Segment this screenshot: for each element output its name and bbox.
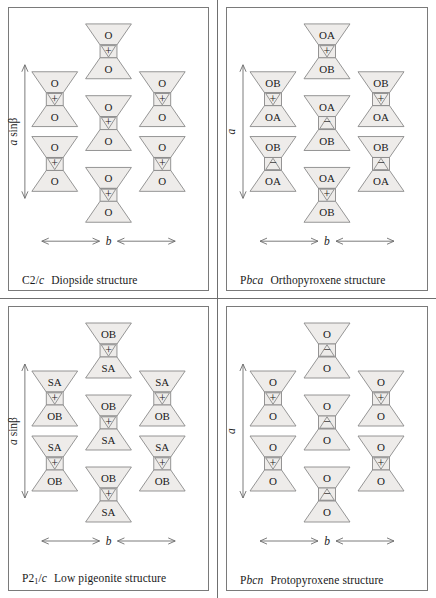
chain-label-top: SA	[155, 441, 169, 453]
structure-figure-grid: +OO+OO+OO+OO+OO+OO+OOa sinβbC2/cDiopside…	[0, 0, 436, 598]
panel-drawing-area: +OBOA−OBOA+OBOA−OBOA+OAOB−OAOB+OAOBab	[218, 0, 436, 298]
chain-label-top: O	[377, 376, 385, 388]
polyhedron-unit: −OO	[304, 467, 350, 522]
chain-label-top: OB	[101, 328, 116, 340]
chain-label-top: OB	[373, 142, 388, 154]
space-group-upright: C2	[22, 274, 36, 286]
chain-label-bottom: OA	[265, 175, 281, 187]
polyhedron-unit: +OO	[358, 371, 404, 426]
polyhedron-unit: +OO	[32, 137, 78, 192]
space-group-symbol: C2/c	[22, 274, 44, 286]
polyhedron-unit: −OO	[304, 395, 350, 450]
space-group-italic: bcn	[247, 574, 264, 586]
panel-drawing-area: +OO+OO+OO+OO−OO−OO−OOab	[218, 299, 436, 598]
chain-label-bottom: OB	[319, 135, 334, 147]
polyhedron-unit: +OO	[86, 167, 132, 222]
stacking-sign: +	[159, 92, 166, 106]
chain-label-top: SA	[48, 441, 62, 453]
stacking-sign: +	[51, 391, 58, 405]
svg-text:a sinβ: a sinβ	[7, 117, 20, 145]
horizontal-axis-label: b	[106, 235, 112, 247]
space-group-italic: c	[39, 274, 44, 286]
polyhedron-unit: +SAOB	[139, 371, 185, 426]
polyhedron-unit: +OO	[250, 371, 296, 426]
stacking-sign: +	[51, 456, 58, 470]
chain-label-bottom: O	[377, 410, 385, 422]
vertical-axis-label: a	[225, 128, 237, 134]
chain-label-top: SA	[155, 376, 169, 388]
panel-caption: PbcnProtopyroxene structure	[240, 575, 384, 587]
structure-panel-p21c: +SAOB+SAOB+SAOB+SAOB+OBSA+OBSA+OBSAa sin…	[0, 299, 218, 598]
chain-label-bottom: O	[105, 63, 113, 75]
panel-caption: P21/cLow pigeonite structure	[22, 573, 166, 586]
polyhedron-unit: +OBSA	[86, 467, 132, 522]
chain-label-bottom: O	[323, 434, 331, 446]
chain-label-top: OB	[101, 400, 116, 412]
polyhedron-unit: +OO	[358, 436, 404, 491]
polyhedron-unit: +OO	[250, 436, 296, 491]
chain-label-bottom: OB	[47, 410, 62, 422]
panel-drawing-area: +OO+OO+OO+OO+OO+OO+OOa sinβb	[0, 0, 217, 298]
vertical-axis-label: a sinβ	[7, 117, 20, 145]
stacking-sign: −	[269, 155, 276, 170]
structure-name: Diopside structure	[51, 274, 137, 286]
svg-text:a: a	[225, 128, 237, 134]
svg-text:a: a	[225, 428, 237, 434]
stacking-sign: −	[323, 342, 330, 357]
polyhedron-unit: +SAOB	[139, 436, 185, 491]
chain-label-top: SA	[48, 376, 62, 388]
horizontal-axis-label: b	[324, 535, 330, 547]
chain-label-bottom: SA	[102, 506, 116, 518]
structure-panel-pbcn: +OO+OO+OO+OO−OO−OO−OOabPbcnProtopyroxene…	[218, 299, 436, 598]
polyhedron-unit: +OBOA	[358, 72, 404, 127]
chain-label-top: OB	[373, 77, 388, 89]
chain-label-top: O	[269, 441, 277, 453]
stacking-sign: +	[324, 187, 331, 201]
chain-label-bottom: OB	[319, 206, 334, 218]
chain-label-bottom: O	[158, 175, 166, 187]
panel-drawing-area: +SAOB+SAOB+SAOB+SAOB+OBSA+OBSA+OBSAa sin…	[0, 299, 217, 598]
stacking-sign: +	[105, 415, 112, 429]
polyhedron-unit: −OAOB	[304, 96, 350, 151]
polyhedron-unit: +OO	[139, 72, 185, 127]
chain-label-bottom: SA	[102, 434, 116, 446]
polyhedron-unit: −OBOA	[358, 137, 404, 192]
chain-label-top: O	[105, 29, 113, 41]
chain-label-bottom: OA	[373, 175, 389, 187]
polyhedron-unit: +SAOB	[32, 371, 78, 426]
stacking-sign: +	[378, 92, 385, 106]
polyhedron-unit: +OBSA	[86, 323, 132, 378]
chain-label-bottom: O	[158, 111, 166, 123]
polyhedron-unit: +OO	[86, 24, 132, 79]
vertical-axis-label: a sinβ	[7, 417, 20, 445]
chain-label-top: O	[51, 77, 59, 89]
stacking-sign: +	[378, 456, 385, 470]
polyhedron-unit: +OO	[139, 137, 185, 192]
polyhedron-unit: +OBSA	[86, 395, 132, 450]
stacking-sign: +	[105, 44, 112, 58]
chain-label-top: OB	[265, 77, 280, 89]
chain-label-top: O	[158, 141, 166, 153]
structure-panel-pbca: +OBOA−OBOA+OBOA−OBOA+OAOB−OAOB+OAOBabPbc…	[218, 0, 436, 299]
vertical-axis-label: a	[225, 428, 237, 434]
stacking-sign: −	[323, 114, 330, 129]
space-group-italic: bca	[247, 274, 264, 286]
chain-label-bottom: O	[269, 475, 277, 487]
chain-label-bottom: OB	[155, 410, 170, 422]
polyhedron-unit: +SAOB	[32, 436, 78, 491]
horizontal-axis-label: b	[324, 235, 330, 247]
structure-name: Low pigeonite structure	[54, 572, 166, 584]
chain-label-top: O	[323, 472, 331, 484]
stacking-sign: +	[159, 456, 166, 470]
polyhedron-unit: +OO	[32, 72, 78, 127]
space-group-symbol: P21/c	[22, 572, 47, 584]
stacking-sign: +	[105, 187, 112, 201]
chain-label-bottom: O	[323, 506, 331, 518]
space-group-italic: c	[42, 572, 47, 584]
stacking-sign: +	[159, 391, 166, 405]
chain-label-bottom: O	[51, 111, 59, 123]
stacking-sign: +	[105, 115, 112, 129]
stacking-sign: +	[270, 92, 277, 106]
chain-label-top: OB	[265, 142, 280, 154]
chain-label-top: O	[269, 376, 277, 388]
